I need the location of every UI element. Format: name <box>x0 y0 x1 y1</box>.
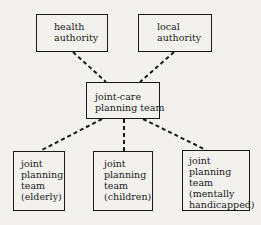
node-label: (children) <box>104 191 152 202</box>
node-label: joint <box>189 155 249 166</box>
node-label: (mentally <box>189 188 249 199</box>
node-local-authority: local authority <box>138 14 212 52</box>
node-label: local <box>157 21 211 32</box>
node-label: planning team <box>95 102 159 113</box>
node-label: (elderly) <box>21 191 64 202</box>
node-label: team <box>104 180 152 191</box>
node-label: joint <box>104 158 152 169</box>
node-label: team <box>189 177 249 188</box>
node-label: joint-care <box>95 91 159 102</box>
node-joint-planning-team-mentally-handicapped: joint planning team (mentally handicappe… <box>182 150 250 211</box>
node-label: authority <box>157 32 211 43</box>
node-joint-care-planning-team: joint-care planning team <box>86 82 160 119</box>
edge-joint-care-to-elderly <box>40 119 102 151</box>
node-joint-planning-team-elderly: joint planning team (elderly) <box>13 151 65 211</box>
node-label: planning <box>21 169 64 180</box>
node-label: joint <box>21 158 64 169</box>
edge-joint-care-to-mentally <box>143 119 206 150</box>
node-label: planning <box>189 166 249 177</box>
node-label: health <box>54 21 107 32</box>
node-label: authority <box>54 32 107 43</box>
edge-health-to-joint-care <box>73 52 106 82</box>
node-label: team <box>21 180 64 191</box>
node-label: handicapped) <box>189 199 249 210</box>
node-label: planning <box>104 169 152 180</box>
node-health-authority: health authority <box>36 14 108 52</box>
node-joint-planning-team-children: joint planning team (children) <box>93 151 153 211</box>
edge-local-to-joint-care <box>140 52 174 82</box>
